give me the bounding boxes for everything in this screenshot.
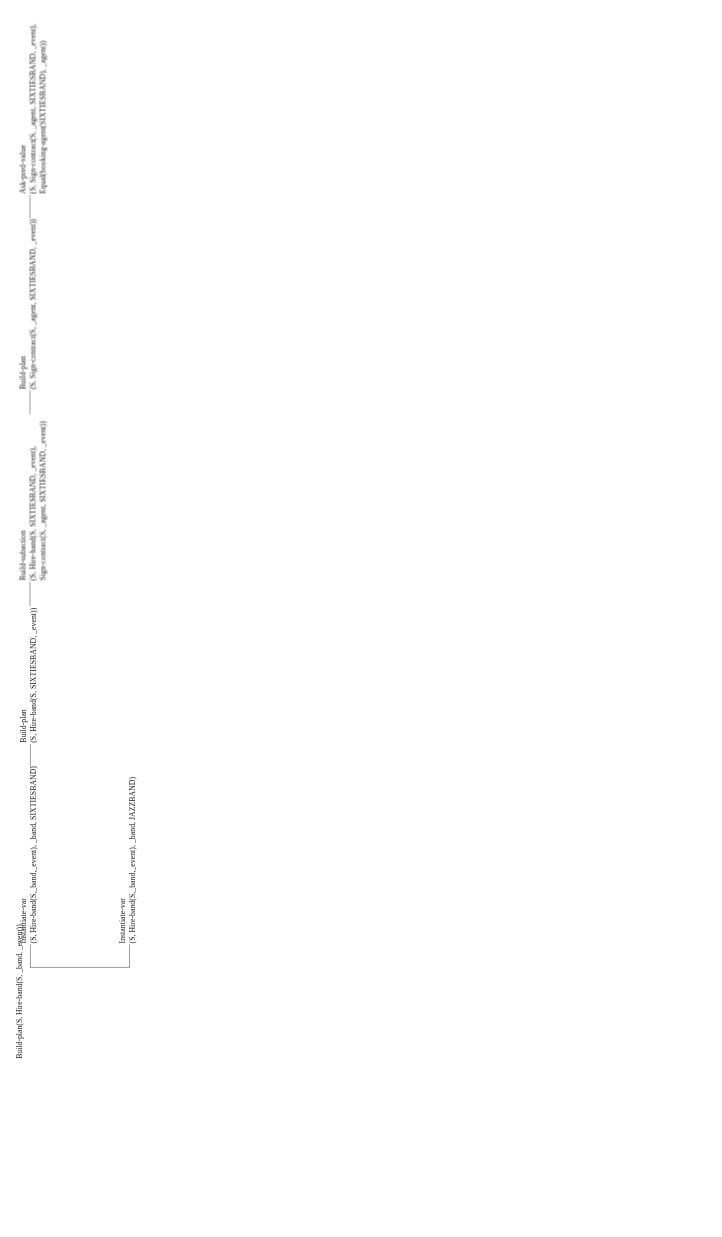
node-title: Build-plan xyxy=(18,608,28,743)
edge-build-plan-to-build-subaction xyxy=(30,582,31,606)
root-node-expression: Build-plan(S, Hire-band(S, _band, _event… xyxy=(15,924,23,1059)
node-expression-line: (S, Hire-band(S,_band,_event), _band, SI… xyxy=(29,766,39,943)
edge-root-to-instantiate-var-sixtiesband xyxy=(30,944,31,967)
node-expression-line: (S, Hire-band(S,_band,_event), _band, JA… xyxy=(128,777,138,944)
node-expression-line: (S, Sign-contract(S, _agent, SIXTIESBAND… xyxy=(29,219,39,390)
node-title: Build-subaction xyxy=(18,421,28,581)
node-expression-line: (S, Sign-contract(S, _agent, SIXTIESBAND… xyxy=(29,24,39,194)
node-build-plan-hire-band: Build-plan (S, Hire-band(S, SIXTIESBAND,… xyxy=(18,608,38,743)
rotated-figure-canvas: Build-plan(S, Hire-band(S, _band, _event… xyxy=(0,0,722,1237)
node-instantiate-var-sixtiesband: Instantiate-var (S, Hire-band(S,_band,_e… xyxy=(18,766,38,943)
node-title: Instantiate-var xyxy=(118,777,128,944)
edge-instantiate-var-to-build-plan xyxy=(30,744,31,768)
node-title: Ask-pred-value xyxy=(18,24,28,194)
edge-build-subaction-to-build-plan xyxy=(30,390,31,414)
edge-root-to-instantiate-var-jazzband xyxy=(129,944,130,967)
node-title: Build-plan xyxy=(18,219,28,390)
node-expression-line: (S, Hire-band(S, SIXTIESBAND, _event), xyxy=(29,421,39,581)
derivation-tree: Build-plan(S, Hire-band(S, _band, _event… xyxy=(0,620,360,1237)
edge-root-trunk xyxy=(30,967,130,968)
node-expression-line: Sign-contract(S, _agent, SIXTIESBAND, _e… xyxy=(39,421,49,581)
node-expression-line: (S, Hire-band(S, SIXTIESBAND, _event)) xyxy=(29,608,39,743)
node-build-plan-sign-contract: Build-plan (S, Sign-contract(S, _agent, … xyxy=(18,219,38,390)
root-node: Build-plan(S, Hire-band(S, _band, _event… xyxy=(15,924,24,1059)
node-title: Instantiate-var xyxy=(18,766,28,943)
node-expression-line: Equal(booking-agent(SIXTIESBAND), _agent… xyxy=(39,24,49,194)
node-instantiate-var-jazzband: Instantiate-var (S, Hire-band(S,_band,_e… xyxy=(118,777,138,944)
node-build-subaction-sign-contract: Build-subaction (S, Hire-band(S, SIXTIES… xyxy=(18,421,48,581)
edge-build-plan-to-ask-pred-value xyxy=(30,195,31,219)
node-ask-pred-value-equal: Ask-pred-value (S, Sign-contract(S, _age… xyxy=(18,24,48,194)
